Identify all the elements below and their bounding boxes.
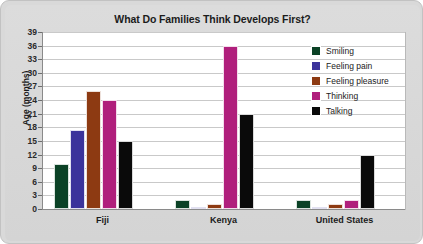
y-axis-tick-mark — [38, 141, 42, 142]
y-axis-tick-mark — [38, 46, 42, 47]
y-axis-tick-label: 33 — [11, 55, 37, 64]
bar-feeling-pain-fiji — [70, 130, 85, 209]
y-axis-tick-mark — [38, 127, 42, 128]
x-axis-label-fiji: Fiji — [42, 215, 163, 225]
legend-item-feeling-pain[interactable]: Feeling pain — [311, 58, 417, 73]
legend-swatch-icon — [311, 61, 321, 71]
bar-feeling-pain-kenya — [191, 207, 206, 209]
bar-smiling-fiji — [54, 164, 69, 209]
legend-swatch-icon — [311, 76, 321, 86]
y-axis-tick-label: 3 — [11, 191, 37, 200]
y-axis-tick-mark — [38, 73, 42, 74]
gridline — [43, 32, 406, 33]
legend-item-thinking[interactable]: Thinking — [311, 88, 417, 103]
bar-talking-united-states — [360, 155, 375, 209]
bar-feeling-pleasure-kenya — [207, 204, 222, 209]
y-axis-tick-mark — [38, 32, 42, 33]
x-axis-label-kenya: Kenya — [163, 215, 284, 225]
y-axis-tick-label: 0 — [11, 205, 37, 214]
y-axis-tick-label: 21 — [11, 110, 37, 119]
bar-thinking-fiji — [102, 100, 117, 209]
y-axis-tick-label: 24 — [11, 96, 37, 105]
legend-item-feeling-pleasure[interactable]: Feeling pleasure — [311, 73, 417, 88]
y-axis-tick-label: 15 — [11, 137, 37, 146]
bar-thinking-kenya — [223, 46, 238, 209]
legend-swatch-icon — [311, 91, 321, 101]
y-axis-tick-label: 39 — [11, 28, 37, 37]
legend-label: Smiling — [326, 46, 354, 56]
bar-feeling-pain-united-states — [312, 207, 327, 209]
bar-feeling-pleasure-fiji — [86, 91, 101, 209]
y-axis-tick-mark — [38, 86, 42, 87]
legend-swatch-icon — [311, 46, 321, 56]
y-axis-tick-labels: 036912151821242730333639 — [10, 32, 37, 209]
y-axis-tick-mark — [38, 182, 42, 183]
bar-smiling-united-states — [296, 200, 311, 209]
y-axis-tick-mark — [38, 114, 42, 115]
y-axis-tick-label: 30 — [11, 69, 37, 78]
x-axis-label-united-states: United States — [284, 215, 405, 225]
y-axis-tick-label: 36 — [11, 42, 37, 51]
legend-item-smiling[interactable]: Smiling — [311, 43, 417, 58]
chart-title: What Do Families Think Develops First? — [5, 13, 420, 25]
y-axis-tick-label: 9 — [11, 164, 37, 173]
legend-swatch-icon — [311, 106, 321, 116]
y-axis-tick-mark — [38, 209, 42, 210]
legend-label: Feeling pain — [326, 61, 372, 71]
y-axis-tick-label: 6 — [11, 178, 37, 187]
bar-thinking-united-states — [344, 200, 359, 209]
y-axis-tick-mark — [38, 168, 42, 169]
y-axis-tick-mark — [38, 195, 42, 196]
y-axis-tick-mark — [38, 155, 42, 156]
bar-talking-kenya — [239, 114, 254, 209]
bar-feeling-pleasure-united-states — [328, 204, 343, 209]
legend-label: Talking — [326, 106, 352, 116]
y-axis-tick-label: 12 — [11, 151, 37, 160]
legend-label: Feeling pleasure — [326, 76, 389, 86]
y-axis-tick-label: 27 — [11, 82, 37, 91]
legend-label: Thinking — [326, 91, 358, 101]
chart-inner-panel: What Do Families Think Develops First? A… — [5, 5, 420, 241]
bar-talking-fiji — [118, 141, 133, 209]
legend-item-talking[interactable]: Talking — [311, 103, 417, 118]
chart-legend: SmilingFeeling painFeeling pleasureThink… — [311, 43, 417, 118]
chart-card: What Do Families Think Develops First? A… — [0, 0, 423, 244]
y-axis-tick-mark — [38, 100, 42, 101]
y-axis-tick-mark — [38, 59, 42, 60]
y-axis-tick-label: 18 — [11, 123, 37, 132]
bar-smiling-kenya — [175, 200, 190, 209]
